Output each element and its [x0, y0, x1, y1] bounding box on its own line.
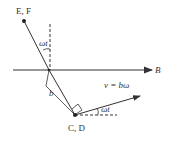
angle-arc-top	[43, 49, 50, 50]
label-field-b: B	[155, 65, 161, 75]
point-cd	[73, 113, 77, 117]
point-ef	[22, 19, 26, 23]
label-length-b: b	[49, 88, 54, 98]
pivot-point	[48, 69, 51, 72]
angle-arc-bottom	[97, 108, 98, 115]
label-ef: E, F	[16, 6, 31, 16]
label-velocity: v = bω	[104, 80, 129, 90]
label-angle-top: ωt	[39, 38, 48, 48]
label-angle-bottom: ωt	[101, 104, 110, 114]
diagram-canvas: E, F ωt B b v = bω ωt C, D	[0, 0, 169, 141]
label-cd: C, D	[68, 123, 86, 133]
